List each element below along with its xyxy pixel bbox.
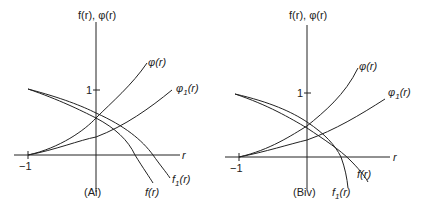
label-phi1: φ1(r): [176, 82, 199, 97]
curve-phi1: [239, 99, 385, 157]
tick-one-label: 1: [297, 87, 303, 99]
tick-minus-one-label: −1: [19, 160, 32, 172]
curve-phi1: [28, 90, 172, 155]
y-axis-label: f(r), φ(r): [289, 9, 327, 21]
figure: f(r), φ(r) r 1 −1 φ(r) φ1(r) f(r) f1(r) …: [0, 0, 425, 208]
curve-phi: [239, 68, 358, 157]
curve-f1: [28, 89, 170, 178]
label-phi: φ(r): [148, 56, 167, 68]
curve-f: [235, 94, 368, 182]
curve-f1: [235, 94, 348, 188]
panel-biv: f(r), φ(r) r 1 −1 φ(r) φ1(r) f(r) f1(r) …: [225, 9, 411, 201]
label-phi: φ(r): [359, 60, 378, 72]
panel-ai: f(r), φ(r) r 1 −1 φ(r) φ1(r) f(r) f1(r) …: [14, 9, 199, 198]
label-phi1: φ1(r): [388, 86, 411, 101]
label-f1: f1(r): [172, 173, 191, 188]
y-axis-label: f(r), φ(r): [78, 9, 116, 21]
tick-minus-one-label: −1: [230, 162, 243, 174]
x-axis-label: r: [182, 149, 187, 161]
x-axis-label: r: [393, 151, 398, 163]
label-f1: f1(r): [332, 186, 351, 201]
label-f: f(r): [357, 168, 371, 180]
panel-caption: (Ai): [84, 186, 101, 198]
label-f: f(r): [145, 186, 159, 198]
panel-caption: (Biv): [293, 186, 316, 198]
tick-one-label: 1: [86, 84, 92, 96]
